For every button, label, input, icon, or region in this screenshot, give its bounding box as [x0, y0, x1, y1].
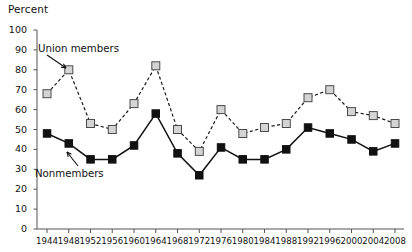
series-markers	[43, 62, 399, 179]
annotation-nonmembers: Nonmembers	[35, 168, 104, 179]
axis-lines	[34, 30, 405, 233]
plot-area	[0, 0, 412, 252]
chart-container: Percent 0102030405060708090100 194419481…	[0, 0, 412, 252]
series-lines	[47, 66, 395, 176]
annotation-arrows	[47, 55, 78, 166]
annotation-union-members: Union members	[38, 43, 119, 54]
